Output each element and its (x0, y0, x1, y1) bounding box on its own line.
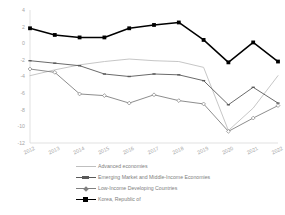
x-axis-tick-label: 2017 (147, 145, 160, 155)
x-axis-tick-label: 2018 (171, 145, 184, 155)
line-chart: 420-2-4-6-8-10-12 2012201320142015201620… (0, 0, 285, 215)
series-layer (28, 21, 280, 134)
data-point-square (103, 36, 107, 40)
y-axis-tick-label: -10 (18, 123, 26, 129)
square-marker-icon (83, 197, 88, 202)
data-point-dash (202, 80, 205, 81)
legend-item-korea: Korea, Republic of (0, 194, 285, 205)
data-point-square (28, 26, 32, 30)
data-point-diamond (251, 116, 255, 120)
data-point-square (78, 36, 82, 40)
legend-swatch-low-income (76, 183, 96, 194)
data-point-square (227, 60, 231, 64)
series-line (30, 22, 278, 62)
legend-item-emerging-market: Emerging Market and Middle-Income Econom… (0, 172, 285, 183)
data-point-dash (252, 87, 255, 88)
x-axis-tick-label: 2020 (221, 145, 234, 155)
y-axis-tick-label: 0 (22, 40, 25, 46)
y-axis-tick-label: -6 (20, 90, 25, 96)
data-point-dash (78, 65, 81, 66)
y-axis-tick-label: -8 (20, 107, 25, 113)
legend-label-emerging-market: Emerging Market and Middle-Income Econom… (98, 172, 210, 183)
legend-swatch-korea (76, 194, 96, 205)
y-axis-tick-label: -2 (20, 57, 25, 63)
x-axis-tick-label: 2019 (196, 145, 209, 155)
data-point-square (276, 60, 280, 64)
legend-swatch-advanced-economies (76, 161, 96, 172)
x-axis-tick-label: 2013 (47, 145, 60, 155)
diamond-marker-icon (83, 186, 89, 192)
data-point-dash (152, 73, 155, 74)
data-point-diamond (152, 93, 156, 97)
data-point-diamond (28, 67, 32, 71)
data-point-diamond (127, 101, 131, 105)
legend-item-advanced-economies: Advanced economies (0, 161, 285, 172)
data-point-diamond (103, 94, 107, 98)
x-axis-tick-label: 2012 (23, 145, 36, 155)
y-axis-tick-label: 2 (22, 24, 25, 30)
data-point-square (152, 23, 156, 27)
chart-canvas: 420-2-4-6-8-10-12 2012201320142015201620… (0, 0, 285, 160)
data-point-dash (177, 74, 180, 75)
y-axis-tick-label: -4 (20, 73, 25, 79)
x-axis-tick-label: 2022 (271, 145, 284, 155)
data-point-square (202, 38, 206, 42)
y-axis-tick-label: -12 (18, 140, 26, 146)
data-point-diamond (177, 99, 181, 103)
x-axis-tick-label: 2014 (72, 145, 85, 155)
plot-area: 420-2-4-6-8-10-12 2012201320142015201620… (0, 0, 285, 160)
data-point-dash (28, 60, 31, 61)
data-point-square (53, 33, 57, 37)
data-point-dash (227, 104, 230, 105)
legend-label-korea: Korea, Republic of (98, 194, 141, 205)
dash-marker-icon (82, 176, 89, 179)
data-point-dash (53, 63, 56, 64)
data-point-square (177, 21, 181, 25)
data-point-dash (103, 73, 106, 74)
data-point-diamond (276, 104, 280, 108)
legend-label-low-income: Low-Income Developing Countries (98, 183, 177, 194)
y-axis-tick-label: 4 (22, 7, 25, 13)
x-axis: 2012201320142015201620172018201920202021… (23, 143, 284, 155)
x-axis-tick-label: 2015 (97, 145, 110, 155)
data-point-square (127, 26, 131, 30)
data-point-dash (128, 76, 131, 77)
legend-item-low-income: Low-Income Developing Countries (0, 183, 285, 194)
chart-legend: Advanced economies Emerging Market and M… (0, 161, 285, 215)
data-point-square (251, 41, 255, 45)
legend-label-advanced-economies: Advanced economies (98, 161, 148, 172)
series-line (30, 69, 278, 131)
legend-swatch-emerging-market (76, 172, 96, 183)
x-axis-tick-label: 2016 (122, 145, 135, 155)
x-axis-tick-label: 2021 (246, 145, 259, 155)
